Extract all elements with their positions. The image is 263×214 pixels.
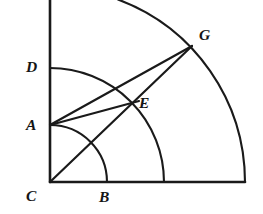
vertex-label-d: D	[26, 59, 37, 75]
vertex-label-a: A	[26, 117, 36, 133]
vertex-label-g: G	[199, 27, 210, 43]
vertex-label-b: B	[99, 189, 109, 205]
vertex-label-c: C	[26, 188, 36, 204]
geometry-figure: A B C D E G	[0, 0, 263, 214]
outer-arc	[118, 0, 245, 182]
chord-a-to-e	[50, 101, 139, 125]
geometry-canvas	[0, 0, 263, 214]
vertex-label-e: E	[139, 95, 149, 111]
